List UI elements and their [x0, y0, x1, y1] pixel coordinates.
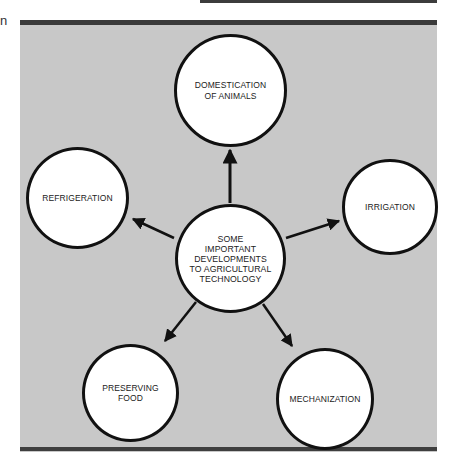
arrow-to-mechanization: [263, 304, 292, 346]
arrow-to-preserving-food: [165, 302, 196, 341]
node-mechanization: MECHANIZATION: [276, 348, 374, 450]
node-label: MECHANIZATION: [289, 394, 360, 405]
node-label: REFRIGERATION: [42, 193, 113, 204]
node-refrigeration: REFRIGERATION: [26, 147, 129, 249]
node-irrigation: IRRIGATION: [342, 159, 438, 255]
node-domestication-of-animals: DOMESTICATION OF ANIMALS: [174, 34, 287, 147]
center-topic-label: SOME IMPORTANT DEVELOPMENTS TO AGRICULTU…: [190, 234, 272, 284]
node-preserving-food: PRESERVING FOOD: [82, 344, 179, 442]
arrow-to-irrigation: [286, 221, 339, 238]
node-center-topic: SOME IMPORTANT DEVELOPMENTS TO AGRICULTU…: [175, 204, 286, 313]
arrow-to-refrigeration: [133, 219, 174, 238]
node-label: DOMESTICATION OF ANIMALS: [195, 80, 267, 101]
node-label: IRRIGATION: [365, 202, 415, 213]
node-label: PRESERVING FOOD: [102, 383, 159, 404]
